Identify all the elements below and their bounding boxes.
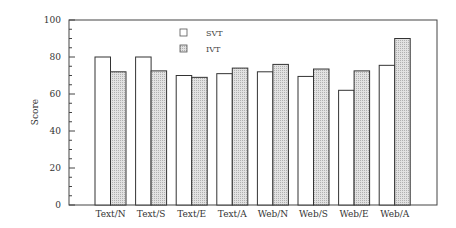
x-tick-label: Web/A <box>380 209 410 219</box>
bar-svt <box>176 76 192 206</box>
bar-ivt <box>192 77 208 205</box>
bar-chart: 020406080100 Text/NText/SText/EText/AWeb… <box>0 0 456 228</box>
x-tick-label: Text/E <box>177 209 206 219</box>
y-tick-label: 60 <box>50 89 62 99</box>
legend-label-ivt: IVT <box>206 45 221 54</box>
bar-ivt <box>314 69 330 205</box>
bar-ivt <box>395 39 411 206</box>
bar-svt <box>136 57 152 205</box>
bar-ivt <box>354 71 370 205</box>
bar-ivt <box>232 68 248 205</box>
x-tick-label: Web/N <box>258 209 289 219</box>
y-tick-label: 100 <box>44 15 61 25</box>
x-tick-label: Web/E <box>339 209 368 219</box>
y-tick-label: 40 <box>50 126 62 136</box>
legend: SVTIVT <box>180 29 223 54</box>
x-tick-label: Web/S <box>299 209 328 219</box>
legend-swatch-ivt <box>180 45 187 52</box>
legend-label-svt: SVT <box>206 29 223 38</box>
bars <box>95 39 410 206</box>
bar-svt <box>217 74 233 205</box>
y-tick-label: 80 <box>50 52 62 62</box>
bar-svt <box>95 57 111 205</box>
bar-ivt <box>111 72 127 205</box>
y-tick-label: 20 <box>50 163 62 173</box>
bar-ivt <box>151 71 167 205</box>
bar-svt <box>339 90 355 205</box>
y-axis: 020406080100 <box>44 15 75 210</box>
y-axis-label: Score <box>30 99 40 125</box>
bar-ivt <box>273 64 289 205</box>
x-tick-label: Text/S <box>137 209 166 219</box>
x-tick-label: Text/N <box>95 209 125 219</box>
legend-swatch-svt <box>180 29 187 36</box>
bar-svt <box>379 65 395 205</box>
y-tick-label: 0 <box>55 200 61 210</box>
bar-svt <box>298 76 314 205</box>
x-tick-label: Text/A <box>218 209 247 219</box>
x-axis-labels: Text/NText/SText/EText/AWeb/NWeb/SWeb/EW… <box>95 209 409 219</box>
bar-svt <box>257 72 273 205</box>
